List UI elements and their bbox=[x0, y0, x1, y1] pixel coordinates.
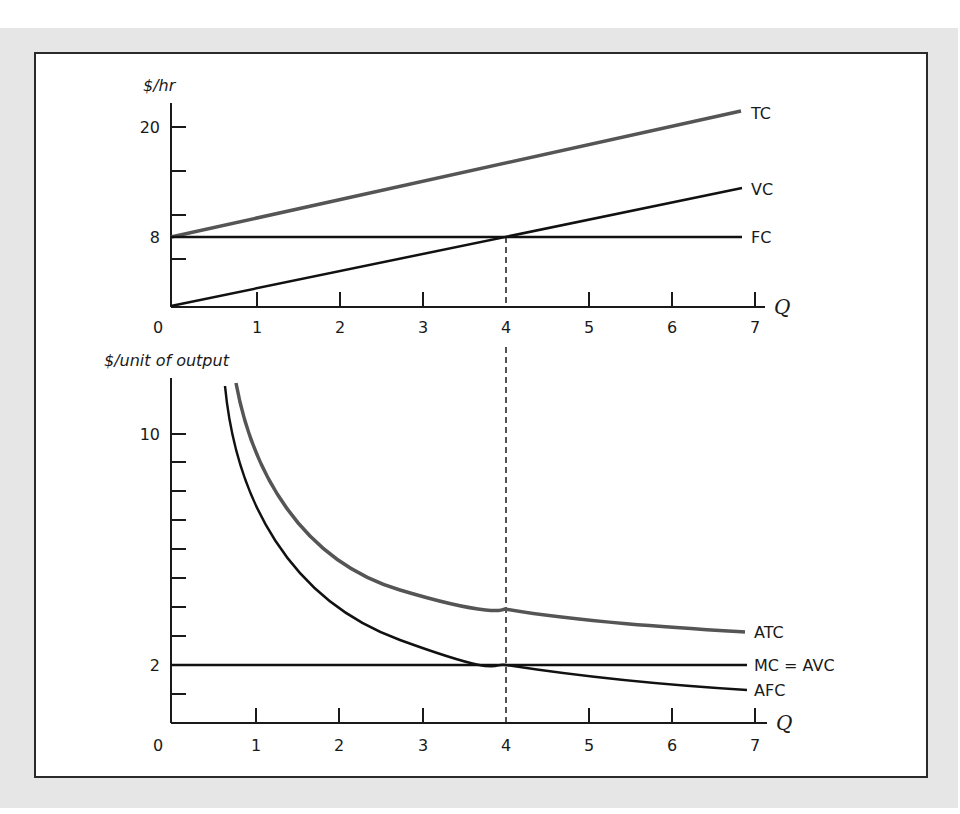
svg-text:4: 4 bbox=[501, 318, 511, 337]
top-y-tick-8: 8 bbox=[150, 228, 160, 247]
top-y-axis-title: $/hr bbox=[143, 76, 177, 95]
svg-text:7: 7 bbox=[750, 736, 760, 755]
fc-label: FC bbox=[751, 228, 771, 247]
afc-curve bbox=[225, 386, 747, 690]
tc-curve bbox=[171, 111, 741, 237]
bottom-x-axis-title: Q bbox=[776, 711, 792, 735]
svg-text:0: 0 bbox=[153, 318, 163, 337]
afc-label: AFC bbox=[754, 681, 785, 700]
svg-text:5: 5 bbox=[584, 736, 594, 755]
bottom-y-axis-title: $/unit of output bbox=[104, 351, 230, 370]
cost-curves-figure: $/hr 20 8 0 1 2 3 4 5 bbox=[0, 0, 960, 814]
svg-text:5: 5 bbox=[584, 318, 594, 337]
atc-curve bbox=[236, 383, 745, 632]
top-x-axis-title: Q bbox=[774, 295, 790, 319]
svg-text:6: 6 bbox=[667, 736, 677, 755]
vc-curve bbox=[171, 188, 742, 306]
vc-label: VC bbox=[751, 180, 773, 199]
svg-text:1: 1 bbox=[252, 318, 262, 337]
top-chart: $/hr 20 8 0 1 2 3 4 5 bbox=[140, 76, 791, 337]
atc-label: ATC bbox=[754, 623, 784, 642]
bottom-chart: $/unit of output 10 2 bbox=[104, 347, 835, 755]
tc-label: TC bbox=[750, 104, 771, 123]
svg-text:4: 4 bbox=[501, 736, 511, 755]
svg-text:1: 1 bbox=[251, 736, 261, 755]
svg-text:6: 6 bbox=[667, 318, 677, 337]
top-y-ticks bbox=[171, 127, 186, 259]
bottom-y-tick-10: 10 bbox=[140, 425, 160, 444]
bottom-x-tick-labels: 0 1 2 3 4 5 6 7 bbox=[153, 736, 760, 755]
svg-text:2: 2 bbox=[335, 318, 345, 337]
svg-text:3: 3 bbox=[418, 736, 428, 755]
bottom-y-tick-2: 2 bbox=[150, 656, 160, 675]
top-y-tick-20: 20 bbox=[140, 118, 160, 137]
top-x-tick-labels: 0 1 2 3 4 5 6 7 bbox=[153, 318, 760, 337]
svg-text:7: 7 bbox=[750, 318, 760, 337]
svg-text:0: 0 bbox=[153, 736, 163, 755]
svg-text:3: 3 bbox=[418, 318, 428, 337]
svg-text:2: 2 bbox=[334, 736, 344, 755]
bottom-y-ticks bbox=[171, 434, 186, 694]
mc-avc-label: MC = AVC bbox=[754, 656, 835, 675]
